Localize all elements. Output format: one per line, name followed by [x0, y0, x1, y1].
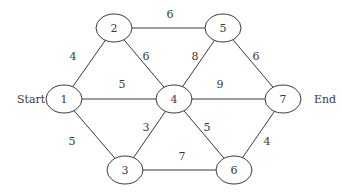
edge-weight-4-7: 9 — [217, 78, 224, 91]
node-5: 5 — [205, 14, 241, 42]
node-7: 7 — [265, 85, 301, 113]
edge-weight-5-7: 6 — [253, 50, 260, 63]
node-label: 6 — [231, 164, 238, 177]
node-4: 4 — [156, 85, 192, 113]
edge-weight-1-3: 5 — [69, 135, 76, 148]
node-label: 3 — [122, 164, 129, 177]
edge-weight-1-4: 5 — [119, 78, 126, 91]
node-1: 1 — [46, 85, 82, 113]
node-label: 4 — [171, 93, 178, 106]
node-6: 6 — [216, 156, 252, 184]
graph-diagram: 466865953547 1234567 Start End — [0, 0, 342, 194]
node-label: 1 — [61, 93, 68, 106]
edge-weight-2-5: 6 — [167, 8, 174, 21]
node-label: 5 — [220, 22, 227, 35]
edge-weight-1-2: 4 — [70, 50, 77, 63]
edge-weight-2-4: 6 — [143, 50, 150, 63]
edge-weight-4-6: 5 — [204, 121, 211, 134]
node-label: 7 — [280, 93, 287, 106]
node-2: 2 — [96, 14, 132, 42]
edge-weight-3-4: 3 — [143, 121, 150, 134]
graph-canvas: 466865953547 1234567 Start End — [0, 0, 342, 194]
start-label: Start — [17, 93, 46, 106]
end-label: End — [314, 93, 336, 106]
node-3: 3 — [107, 156, 143, 184]
edge-weight-6-7: 4 — [264, 135, 271, 148]
node-label: 2 — [111, 22, 118, 35]
edge-weight-4-5: 8 — [192, 50, 199, 63]
edge-weight-3-6: 7 — [179, 150, 186, 163]
